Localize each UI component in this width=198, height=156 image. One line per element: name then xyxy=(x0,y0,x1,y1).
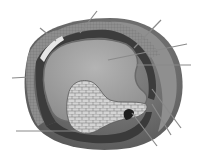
diagram-stage xyxy=(0,0,198,156)
embryo-cross-section-diagram xyxy=(0,0,198,156)
